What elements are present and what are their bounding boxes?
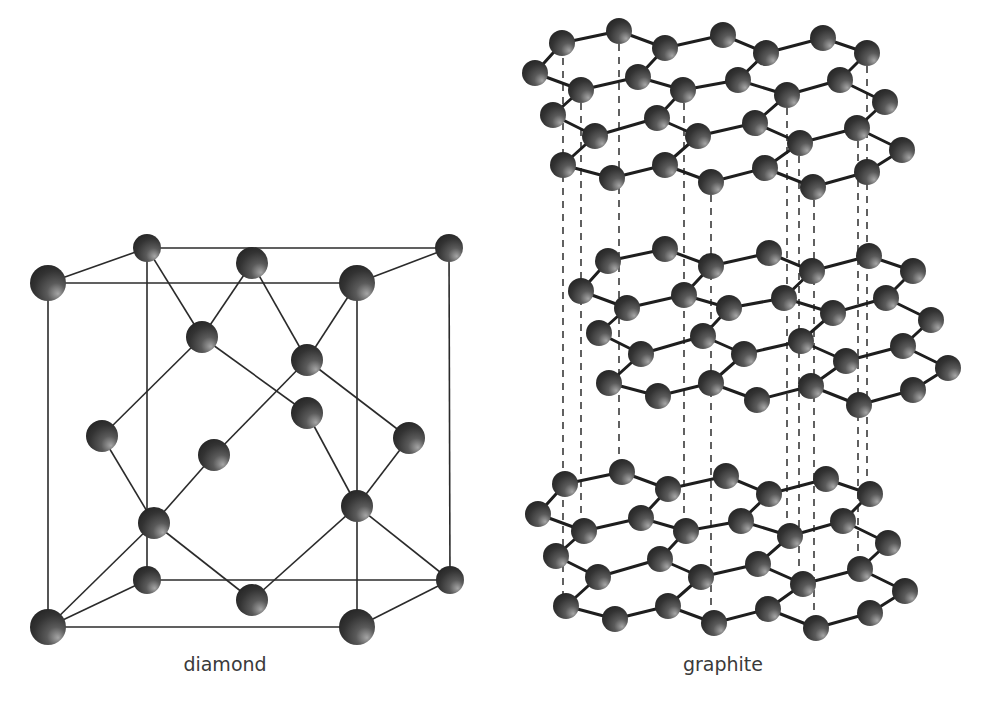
carbon-atom (553, 593, 579, 619)
carbon-atom (803, 615, 829, 641)
carbon-atom (625, 64, 651, 90)
carbon-atom (645, 383, 671, 409)
bond-line (307, 360, 409, 438)
middle-layer (568, 236, 961, 418)
carbon-atom (609, 459, 635, 485)
bond-line (252, 506, 357, 600)
carbon-atom (788, 328, 814, 354)
carbon-atom (291, 344, 323, 376)
carbon-atom (731, 341, 757, 367)
carbon-atom (571, 518, 597, 544)
carbon-atom (744, 387, 770, 413)
carbon-atom (856, 243, 882, 269)
carbon-atom (685, 123, 711, 149)
bond-line (449, 248, 450, 580)
carbon-atom (701, 610, 727, 636)
carbon-atom (774, 82, 800, 108)
carbon-atom (585, 564, 611, 590)
carbon-atom (892, 578, 918, 604)
carbon-atom (753, 40, 779, 66)
bond-line (154, 523, 252, 600)
diamond-atoms (30, 234, 464, 645)
carbon-atom (522, 60, 548, 86)
graphite-layers (522, 18, 961, 641)
carbon-atom (900, 377, 926, 403)
carbon-atom (857, 600, 883, 626)
carbon-atom (854, 40, 880, 66)
carbon-atom (86, 420, 118, 452)
carbon-atom (586, 320, 612, 346)
carbon-atom (614, 295, 640, 321)
carbon-atom (698, 370, 724, 396)
carbon-atom (872, 89, 898, 115)
diamond-caption: diamond (152, 653, 298, 675)
carbon-atom (652, 35, 678, 61)
carbon-atom (602, 606, 628, 632)
carbon-atom (655, 593, 681, 619)
carbon-atom (549, 30, 575, 56)
carbon-atom (813, 466, 839, 492)
carbon-atom (935, 355, 961, 381)
carbon-atom (690, 323, 716, 349)
carbon-atom (873, 285, 899, 311)
carbon-atom (830, 508, 856, 534)
carbon-atom (550, 152, 576, 178)
carbon-atom (889, 137, 915, 163)
carbon-atom (799, 258, 825, 284)
carbon-atom (652, 152, 678, 178)
carbon-atom (30, 265, 66, 301)
carbon-atom (341, 490, 373, 522)
carbon-atom (596, 370, 622, 396)
carbon-atom (798, 373, 824, 399)
carbon-atom (756, 240, 782, 266)
bond-line (357, 506, 450, 580)
carbon-atom (900, 258, 926, 284)
carbon-atom (673, 518, 699, 544)
carbon-atom (745, 551, 771, 577)
carbon-atom (652, 236, 678, 262)
carbon-atom (552, 471, 578, 497)
carbon-atom (30, 609, 66, 645)
carbon-atom (647, 546, 673, 572)
carbon-atom (540, 102, 566, 128)
carbon-atom (543, 543, 569, 569)
graphite-structure (522, 18, 961, 641)
carbon-atom (236, 247, 268, 279)
carbon-atom (771, 285, 797, 311)
carbon-atom (854, 159, 880, 185)
structure-figure: diamond graphite (0, 0, 986, 706)
carbon-atom (827, 67, 853, 93)
carbon-atom (628, 505, 654, 531)
carbon-atom (790, 571, 816, 597)
carbon-atom (728, 508, 754, 534)
carbon-atom (716, 295, 742, 321)
carbon-atom (525, 501, 551, 527)
carbon-atom (568, 77, 594, 103)
carbon-atom (833, 348, 859, 374)
carbon-atom (857, 481, 883, 507)
carbon-atom (777, 523, 803, 549)
carbon-atom (713, 463, 739, 489)
carbon-atom (628, 341, 654, 367)
carbon-atom (890, 333, 916, 359)
diamond-structure (30, 234, 464, 645)
carbon-atom (752, 155, 778, 181)
carbon-atom (846, 392, 872, 418)
carbon-atom (582, 123, 608, 149)
bond-line (102, 337, 202, 436)
bond-line (252, 263, 307, 360)
carbon-atom (755, 596, 781, 622)
carbon-atom (847, 556, 873, 582)
bottom-layer (525, 459, 918, 641)
carbon-atom (568, 278, 594, 304)
carbon-atom (236, 584, 268, 616)
carbon-atom (198, 439, 230, 471)
carbon-atom (698, 253, 724, 279)
carbon-atom (133, 566, 161, 594)
carbon-atom (671, 282, 697, 308)
carbon-atom (138, 507, 170, 539)
carbon-atom (698, 169, 724, 195)
carbon-atom (756, 481, 782, 507)
carbon-atom (787, 130, 813, 156)
carbon-atom (644, 105, 670, 131)
